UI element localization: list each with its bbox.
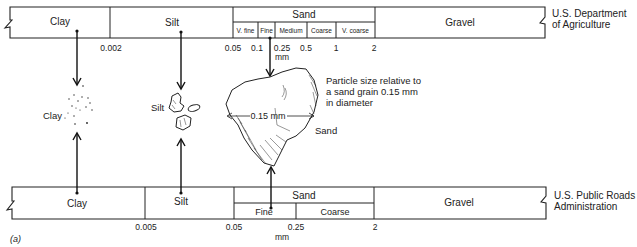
usda-sand-vcoarse: V. coarse xyxy=(342,27,369,34)
sand-particle-label: Sand xyxy=(315,125,337,136)
caption-line2: a sand grain 0.15 mm xyxy=(326,86,418,97)
clay-particles-icon xyxy=(64,85,92,125)
usda-sand-label: Sand xyxy=(292,9,315,20)
usda-boundary-1: 1 xyxy=(334,43,339,53)
usda-gravel-label: Gravel xyxy=(445,17,474,28)
pra-boundary-005: 0.05 xyxy=(226,222,243,232)
pra-silt-label: Silt xyxy=(174,196,188,207)
pra-boundary-025: 0.25 xyxy=(288,222,305,232)
pra-scale-bar: Clay Silt Sand Fine Coarse Gravel 0.005 … xyxy=(7,187,635,242)
usda-sand-vfine: V. fine xyxy=(237,27,255,34)
pra-clay-label: Clay xyxy=(67,198,87,209)
silt-particle-label: Silt xyxy=(151,102,165,113)
silt-particles-icon xyxy=(169,93,201,130)
pra-org-line2: Administration xyxy=(554,201,617,212)
usda-boundary-0002: 0.002 xyxy=(100,43,122,53)
soil-classification-diagram: Clay Silt Sand Gravel V. fine Fine Mediu… xyxy=(0,0,637,247)
figure-label: (a) xyxy=(10,234,21,244)
usda-boundary-05: 0.5 xyxy=(300,43,312,53)
usda-boundary-01: 0.1 xyxy=(251,43,263,53)
usda-sand-coarse: Coarse xyxy=(311,27,332,34)
usda-unit-label: mm xyxy=(275,52,289,62)
caption-line1: Particle size relative to xyxy=(326,75,421,86)
usda-clay-label: Clay xyxy=(50,16,70,27)
pra-sand-label: Sand xyxy=(292,190,315,201)
clay-particle-label: Clay xyxy=(43,110,62,121)
pra-gravel-label: Gravel xyxy=(444,197,473,208)
usda-boundary-005: 0.05 xyxy=(225,43,242,53)
usda-silt-label: Silt xyxy=(165,17,179,28)
pra-org-line1: U.S. Public Roads xyxy=(554,190,635,201)
caption-line3: in diameter xyxy=(326,97,373,108)
usda-org-line1: U.S. Department xyxy=(552,8,627,19)
pra-boundary-2: 2 xyxy=(373,222,378,232)
sand-dimension-label: 0.15 mm xyxy=(250,111,285,121)
pra-unit-label: mm xyxy=(275,232,289,242)
usda-sand-fine: Fine xyxy=(260,27,273,34)
pra-sand-coarse: Coarse xyxy=(320,207,349,217)
usda-boundary-2: 2 xyxy=(372,43,377,53)
usda-sand-medium: Medium xyxy=(279,27,302,34)
pra-boundary-0005: 0.005 xyxy=(135,222,157,232)
usda-org-line2: of Agriculture xyxy=(552,19,611,30)
usda-scale-bar: Clay Silt Sand Gravel V. fine Fine Mediu… xyxy=(5,7,627,62)
